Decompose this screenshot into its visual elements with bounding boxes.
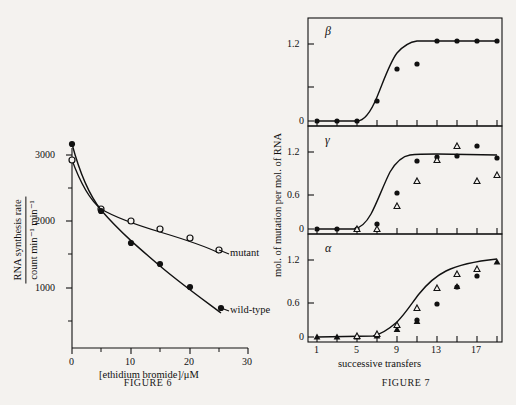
- fig6-y-major-ticks: [66, 155, 72, 288]
- fig6-y-label-numerator: RNA synthesis rate: [11, 196, 26, 283]
- fig7-alpha-points-filled: [314, 259, 501, 340]
- fig7-panel-alpha: [308, 234, 502, 342]
- fig7-x-axis-label: successive transfers: [338, 358, 421, 369]
- fig7-y-axis-label-text: mol. of mutation per mol. of RNA: [272, 133, 283, 277]
- fig7-panel-letter-beta: β: [325, 24, 331, 39]
- fig7-alpha-y-tick-1-2: 1.2: [287, 254, 300, 265]
- fig7-beta-curve: [317, 41, 497, 121]
- figure-6: 3000 2000 1000 0 10 20 30 RNA synthesis …: [0, 0, 278, 405]
- fig7-gamma-points-open: [354, 143, 500, 232]
- fig7-alpha-curve: [317, 259, 497, 337]
- fig7-alpha-points-open: [354, 266, 480, 339]
- fig7-panel-gamma: [308, 126, 502, 234]
- fig7-alpha-y-tick-0-6: 0.6: [287, 297, 300, 308]
- fig7-x-tick-13: 13: [431, 344, 441, 355]
- figure-7: β γ α 1.2 0 1.2 0.6 0 1.2 0.6 0 1 5 9 13…: [278, 0, 516, 405]
- fig7-gamma-curve: [317, 154, 497, 229]
- fig7-alpha-frame: [308, 234, 502, 342]
- figure-page: 3000 2000 1000 0 10 20 30 RNA synthesis …: [0, 0, 516, 405]
- fig7-caption: FIGURE 7: [346, 377, 466, 388]
- fig7-x-tick-17: 17: [471, 344, 481, 355]
- fig6-caption: FIGURE 6: [88, 377, 208, 388]
- fig7-gamma-points-filled: [314, 143, 499, 231]
- fig6-y-tick-3000: 3000: [35, 149, 55, 160]
- fig6-x-tick-20: 20: [184, 356, 194, 367]
- fig7-gamma-y-tick-0: 0: [299, 223, 304, 234]
- fig7-gamma-y-tick-1-2: 1.2: [287, 146, 300, 157]
- fig7-x-tick-5: 5: [354, 344, 359, 355]
- fig7-x-tick-9: 9: [394, 344, 399, 355]
- fig6-x-minor-ticks: [101, 348, 219, 352]
- fig7-panel-beta: [308, 18, 502, 126]
- fig6-y-axis-label: RNA synthesis rate count min⁻¹ min⁻¹: [14, 150, 38, 330]
- fig6-mutant-points: [69, 157, 222, 253]
- fig7-beta-y-tick-1-2: 1.2: [287, 38, 300, 49]
- fig6-wildtype-points: [69, 141, 224, 311]
- fig6-wildtype-curve: [72, 144, 221, 313]
- fig6-series-label-wild-type: wild-type: [230, 304, 270, 315]
- fig7-gamma-y-tick-0-6: 0.6: [287, 189, 300, 200]
- fig7-x-tick-1: 1: [314, 344, 319, 355]
- figure-6-plot: [0, 0, 278, 405]
- fig6-x-tick-30: 30: [242, 356, 252, 367]
- fig7-panel-letter-alpha: α: [325, 241, 331, 256]
- fig6-y-label-denominator: count min⁻¹ min⁻¹: [27, 196, 41, 283]
- fig7-y-axis-label: mol. of mutation per mol. of RNA: [268, 100, 286, 310]
- fig7-gamma-frame: [308, 126, 502, 234]
- fig7-beta-frame: [308, 18, 502, 126]
- fig6-x-tick-10: 10: [125, 356, 135, 367]
- fig7-alpha-y-tick-0: 0: [299, 331, 304, 342]
- fig6-mutant-curve: [72, 160, 219, 253]
- fig6-y-minor-ticks: [68, 188, 72, 321]
- fig7-beta-y-tick-0: 0: [299, 115, 304, 126]
- fig6-series-label-mutant: mutant: [230, 247, 259, 258]
- fig6-y-tick-1000: 1000: [35, 282, 55, 293]
- fig7-beta-points: [314, 38, 499, 123]
- fig6-x-tick-0: 0: [69, 356, 74, 367]
- fig7-panel-letter-gamma: γ: [325, 133, 330, 148]
